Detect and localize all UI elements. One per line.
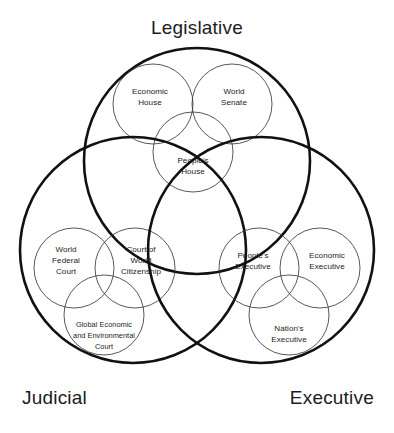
nations-executive-label-line-1: Nation's: [274, 324, 303, 333]
economic-house-label-line-2: House: [138, 98, 162, 107]
global-economic-and-environmental-court-label-line-2: and Environmental: [73, 331, 135, 340]
nations-executive-label-line-2: Executive: [271, 335, 307, 344]
world-federal-court-label-line-1: World: [55, 245, 76, 254]
economic-executive-label-line-1: Economic: [309, 251, 345, 260]
global-economic-and-environmental-court-label-line-3: Court: [95, 342, 113, 351]
world-federal-court-label-line-2: Federal: [52, 256, 80, 265]
branch-group-executive[interactable]: People's Executive Economic Executive Na…: [148, 137, 374, 363]
executive-outer-circle[interactable]: [148, 137, 374, 363]
economic-house-label-line-1: Economic: [132, 87, 168, 96]
branch-title-judicial: Judicial: [22, 387, 87, 408]
world-senate-label-line-2: Senate: [221, 98, 247, 107]
court-of-world-citizenship-label-line-1: Court of: [126, 245, 156, 254]
world-federal-court-label-line-3: Court: [56, 267, 77, 276]
global-economic-and-environmental-court-label-line-1: Global Economic: [76, 320, 132, 329]
peoples-house-label-line-2: House: [181, 167, 205, 176]
peoples-executive-label-line-2: Executive: [235, 262, 271, 271]
venn-diagram-canvas: Economic House World Senate People's Hou…: [0, 0, 394, 433]
three-branches-venn-diagram: Economic House World Senate People's Hou…: [0, 0, 394, 433]
branch-title-executive: Executive: [290, 387, 374, 408]
world-senate-label-line-1: World: [223, 87, 244, 96]
court-of-world-citizenship-label-line-3: Citizenship: [121, 267, 162, 276]
branch-group-legislative[interactable]: Economic House World Senate People's Hou…: [84, 48, 310, 274]
branch-group-judicial[interactable]: World Federal Court Court of World Citiz…: [20, 137, 246, 363]
peoples-executive-label-line-1: People's: [237, 251, 268, 260]
economic-executive-label-line-2: Executive: [309, 262, 345, 271]
branch-title-legislative: Legislative: [151, 17, 243, 38]
